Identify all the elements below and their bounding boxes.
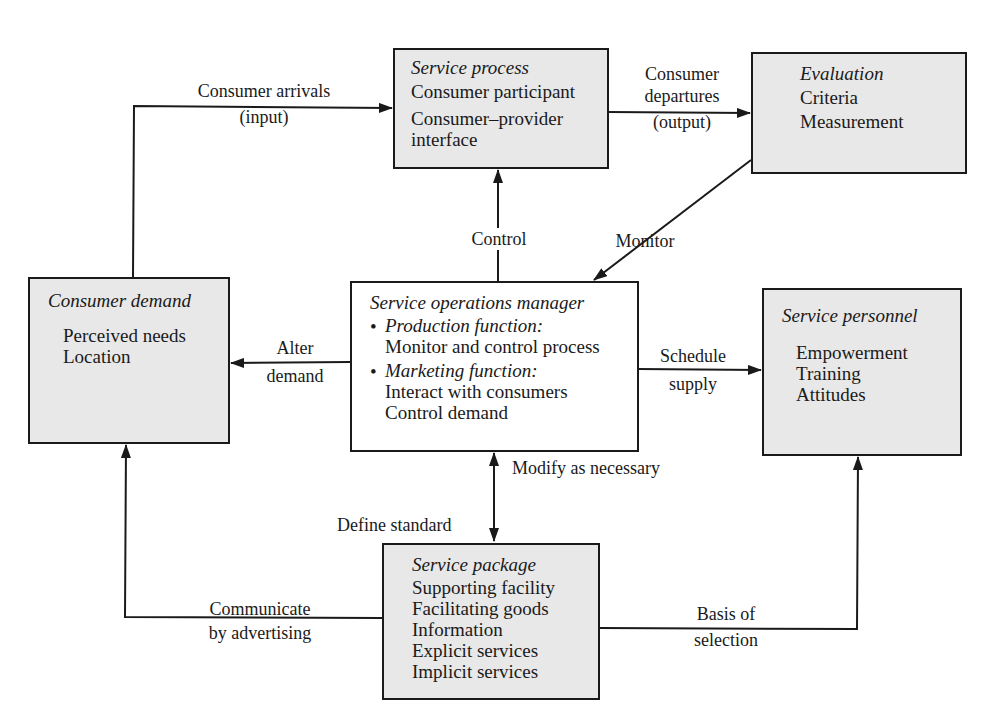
consumer-arrivals-text: Consumer arrivals — [178, 80, 350, 102]
consumer-departures-sub: (output) — [622, 111, 742, 133]
service-process-line: Consumer participant — [411, 80, 607, 104]
bullet-icon: • — [370, 315, 377, 339]
selection-text: selection — [676, 629, 776, 651]
alter-demand-text: demand — [255, 365, 335, 387]
alter-demand-text: Alter — [255, 337, 335, 359]
service-personnel-line: Attitudes — [796, 384, 960, 405]
edge-monitor — [594, 160, 751, 280]
edge-consumer-arrivals — [133, 106, 392, 277]
node-consumer-demand: Consumer demand Perceived needs Location — [28, 277, 230, 444]
marketing-function-line: Interact with consumers — [385, 381, 637, 402]
basis-of-text: Basis of — [676, 603, 776, 625]
marketing-function-heading: Marketing function: — [385, 360, 637, 381]
manager-title: Service operations manager — [370, 291, 637, 315]
service-package-line: Information — [412, 619, 598, 640]
service-package-title: Service package — [412, 553, 598, 577]
consumer-departures-text: departures — [622, 85, 742, 107]
production-function-heading: Production function: — [385, 315, 637, 336]
service-process-line: Consumer–provider — [411, 107, 607, 131]
consumer-demand-title: Consumer demand — [48, 289, 228, 313]
consumer-departures-text: Consumer — [622, 63, 742, 85]
service-package-line: Supporting facility — [412, 577, 598, 598]
schedule-supply-text: Schedule — [648, 345, 738, 367]
monitor-text: Monitor — [615, 231, 674, 251]
label-modify-as-necessary: Modify as necessary — [512, 457, 660, 479]
label-basis-of-selection: Basis of selection — [676, 603, 776, 651]
node-evaluation: Evaluation Criteria Measurement — [751, 52, 967, 174]
label-define-standard: Define standard — [337, 514, 451, 536]
service-personnel-title: Service personnel — [782, 304, 960, 328]
service-package-line: Implicit services — [412, 661, 598, 682]
label-control: Control — [462, 228, 536, 250]
modify-as-necessary-text: Modify as necessary — [512, 458, 660, 478]
service-process-line: interface — [411, 131, 607, 149]
communicate-text: Communicate — [180, 598, 340, 620]
label-alter-demand: Alter demand — [255, 337, 335, 387]
consumer-demand-line: Location — [63, 346, 228, 367]
define-standard-text: Define standard — [337, 515, 451, 535]
service-package-line: Facilitating goods — [412, 598, 598, 619]
bullet-icon: • — [370, 360, 377, 384]
service-package-line: Explicit services — [412, 640, 598, 661]
control-text: Control — [471, 229, 526, 249]
node-service-process: Service process Consumer participant Con… — [393, 48, 609, 169]
schedule-supply-text: supply — [648, 373, 738, 395]
service-personnel-line: Training — [796, 363, 960, 384]
label-communicate-by-advertising: Communicate by advertising — [180, 598, 340, 644]
label-schedule-supply: Schedule supply — [648, 345, 738, 395]
evaluation-line: Criteria — [800, 86, 965, 110]
node-service-package: Service package Supporting facility Faci… — [382, 543, 600, 700]
service-process-title: Service process — [411, 56, 607, 80]
production-function-line: Monitor and control process — [385, 336, 637, 357]
node-service-personnel: Service personnel Empowerment Training A… — [762, 288, 962, 456]
evaluation-title: Evaluation — [800, 62, 965, 86]
label-monitor: Monitor — [606, 230, 684, 252]
consumer-demand-line: Perceived needs — [63, 325, 228, 346]
label-consumer-arrivals: Consumer arrivals (input) — [178, 80, 350, 128]
service-personnel-line: Empowerment — [796, 342, 960, 363]
consumer-arrivals-sub: (input) — [178, 106, 350, 128]
evaluation-line: Measurement — [800, 110, 965, 134]
label-consumer-departures: Consumer departures (output) — [622, 63, 742, 133]
marketing-function-line: Control demand — [385, 402, 637, 423]
node-service-operations-manager: Service operations manager • Production … — [350, 281, 639, 452]
by-advertising-text: by advertising — [180, 622, 340, 644]
